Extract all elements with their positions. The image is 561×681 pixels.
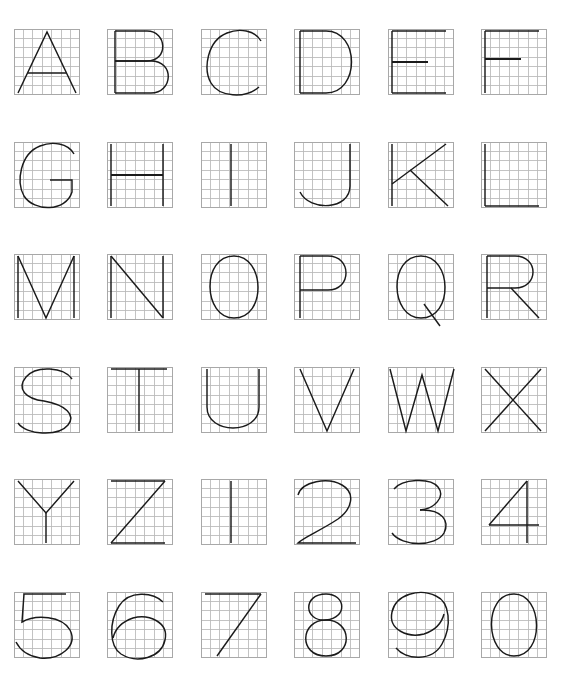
glyph-4	[481, 479, 547, 545]
glyph-stroke-n-1	[111, 256, 163, 318]
graph-paper-border	[14, 30, 79, 95]
glyph-1	[201, 479, 267, 545]
graph-paper-border	[14, 592, 79, 657]
graph-paper-lines	[294, 29, 360, 95]
glyph-stroke-b-1	[115, 31, 163, 61]
graph-paper-lines	[481, 479, 547, 545]
glyph-cell	[374, 6, 468, 119]
graph-paper-lines	[294, 254, 360, 320]
glyph-j	[294, 142, 360, 208]
glyph-q	[388, 254, 454, 320]
glyph-u	[201, 367, 267, 433]
glyph-cell	[374, 456, 468, 569]
glyph-stroke-r-2	[511, 288, 539, 318]
graph-paper-lines	[294, 592, 360, 658]
graph-paper-border	[201, 592, 266, 657]
glyph-stroke-g-0	[20, 143, 74, 207]
glyph-stroke-8-1	[306, 620, 347, 656]
glyph-cell	[94, 231, 188, 344]
graph-paper-border	[295, 30, 360, 95]
glyph-cell	[0, 6, 94, 119]
glyph-z	[107, 479, 173, 545]
glyph-stroke-3-0	[394, 481, 441, 511]
glyph-stroke-o-0	[210, 256, 258, 318]
glyph-cell	[187, 456, 281, 569]
graph-paper-border	[295, 592, 360, 657]
glyph-s	[14, 367, 80, 433]
glyph-stroke-v-0	[300, 369, 354, 431]
glyph-stroke-6-0	[112, 594, 166, 659]
glyph-n	[107, 254, 173, 320]
graph-paper-lines	[107, 367, 173, 433]
glyph-e	[388, 29, 454, 95]
glyph-cell	[468, 6, 561, 119]
glyph-y	[14, 479, 80, 545]
glyph-cell	[281, 119, 375, 232]
glyph-cell	[281, 456, 375, 569]
glyph-f	[481, 29, 547, 95]
glyph-cell	[374, 231, 468, 344]
glyph-0	[481, 592, 547, 658]
glyph-stroke-9-0	[391, 592, 448, 657]
glyph-grid-container	[0, 0, 561, 675]
graph-paper-lines	[201, 367, 267, 433]
graph-paper-lines	[14, 142, 80, 208]
glyph-cell	[281, 6, 375, 119]
glyph-cell	[281, 569, 375, 681]
glyph-cell	[0, 569, 94, 681]
graph-paper-lines	[14, 29, 80, 95]
glyph-stroke-3-1	[392, 510, 446, 544]
graph-paper-lines	[201, 592, 267, 658]
glyph-cell	[281, 231, 375, 344]
glyph-o	[201, 254, 267, 320]
glyph-a	[14, 29, 80, 95]
glyph-r	[481, 254, 547, 320]
glyph-stroke-j-0	[300, 144, 350, 206]
glyph-cell	[281, 344, 375, 457]
glyph-v	[294, 367, 360, 433]
glyph-cell	[94, 344, 188, 457]
glyph-p	[294, 254, 360, 320]
glyph-cell	[374, 569, 468, 681]
glyph-g	[14, 142, 80, 208]
glyph-stroke-d-1	[300, 31, 352, 93]
glyph-stroke-q-0	[397, 256, 445, 318]
glyph-stroke-r-1	[487, 256, 533, 288]
glyph-cell	[468, 231, 561, 344]
glyph-stroke-z-1	[111, 481, 165, 543]
glyph-stroke-k-2	[410, 170, 448, 206]
glyph-h	[107, 142, 173, 208]
glyph-cell	[0, 231, 94, 344]
graph-paper-border	[201, 367, 266, 432]
glyph-cell	[187, 344, 281, 457]
glyph-reference-sheet	[0, 0, 561, 681]
glyph-stroke-8-0	[309, 594, 342, 620]
glyph-x	[481, 367, 547, 433]
glyph-6	[107, 592, 173, 658]
glyph-cell	[0, 119, 94, 232]
glyph-stroke-m-1	[18, 256, 74, 318]
glyph-cell	[94, 119, 188, 232]
graph-paper-lines	[481, 254, 547, 320]
glyph-3	[388, 479, 454, 545]
glyph-cell	[94, 569, 188, 681]
glyph-cell	[187, 6, 281, 119]
graph-paper-lines	[388, 142, 454, 208]
graph-paper-lines	[481, 367, 547, 433]
glyph-stroke-2-0	[298, 481, 356, 543]
graph-paper-border	[482, 480, 547, 545]
glyph-8	[294, 592, 360, 658]
glyph-cell	[0, 344, 94, 457]
graph-paper-border	[388, 255, 453, 320]
glyph-stroke-u-0	[207, 369, 259, 428]
graph-paper-border	[201, 142, 266, 207]
glyph-cell	[374, 119, 468, 232]
glyph-cell	[187, 231, 281, 344]
glyph-cell	[468, 119, 561, 232]
graph-paper-lines	[201, 479, 267, 545]
graph-paper-border	[295, 480, 360, 545]
graph-paper-lines	[481, 142, 547, 208]
graph-paper-lines	[107, 479, 173, 545]
glyph-c	[201, 29, 267, 95]
graph-paper-border	[482, 367, 547, 432]
